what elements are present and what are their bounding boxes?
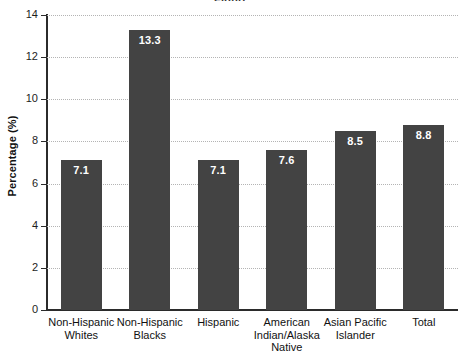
y-tick-label: 0 [12,303,38,315]
category-label-line: Islander [315,329,396,342]
y-tick-label: 4 [12,219,38,231]
bar-value-label: 8.5 [335,135,376,147]
category-label: Total [384,316,463,329]
y-tick-label: 8 [12,134,38,146]
bar[interactable]: 7.1 [61,160,102,310]
plot-area: 7.113.37.17.68.58.8 [47,15,458,310]
bar-value-label: 13.3 [129,34,170,46]
bar-value-label: 7.1 [198,164,239,176]
chart-title-remnant: Figure [0,0,463,1]
bar[interactable]: 13.3 [129,30,170,310]
y-tick [41,15,46,16]
y-tick-label: 14 [12,8,38,20]
category-label-line: Blacks [110,329,191,342]
bar[interactable]: 8.5 [335,131,376,310]
bar[interactable]: 7.6 [266,150,307,310]
y-tick-label: 6 [12,177,38,189]
bar-chart: Figure Percentage (%) 02468101214 7.113.… [0,0,463,355]
category-label-line: Total [384,316,463,329]
y-tick [41,99,46,100]
y-axis-title: Percentage (%) [6,96,18,216]
bar[interactable]: 8.8 [403,125,444,310]
bar-value-label: 8.8 [403,129,444,141]
y-tick-label: 10 [12,92,38,104]
y-tick [41,310,46,311]
y-tick-label: 2 [12,261,38,273]
y-tick [41,184,46,185]
y-tick-label: 12 [12,50,38,62]
y-tick [41,268,46,269]
y-tick [41,226,46,227]
y-tick [41,57,46,58]
bar-value-label: 7.1 [61,164,102,176]
category-label-line: Native [247,341,328,354]
y-tick [41,141,46,142]
bar[interactable]: 7.1 [198,160,239,310]
bar-value-label: 7.6 [266,154,307,166]
